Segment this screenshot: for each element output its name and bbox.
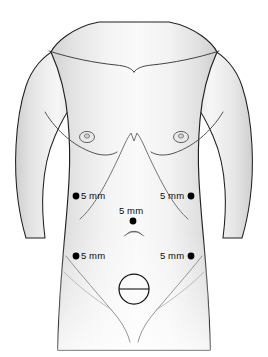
midline-5mm-port-label: 5 mm [119, 206, 143, 216]
left-nipple-marker [80, 131, 95, 142]
upper-left-5mm-port-dot [73, 193, 80, 200]
torso-illustration [0, 0, 268, 357]
lower-right-5mm-port-label: 5 mm [160, 251, 184, 261]
lower-right-5mm-port-dot [188, 253, 195, 260]
right-nipple-marker [174, 131, 189, 142]
midline-5mm-port-dot [130, 218, 137, 225]
port-placement-figure: 5 mm 5 mm 5 mm 5 mm 5 mm [0, 0, 268, 357]
upper-left-5mm-port-label: 5 mm [81, 191, 105, 201]
upper-right-5mm-port-label: 5 mm [160, 191, 184, 201]
upper-right-5mm-port-dot [188, 193, 195, 200]
lower-left-5mm-port-dot [73, 253, 80, 260]
lower-left-5mm-port-label: 5 mm [81, 251, 105, 261]
